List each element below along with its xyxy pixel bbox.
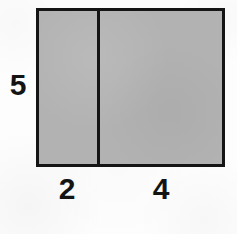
vertical-divider-line	[97, 11, 100, 164]
rectangle-shape	[36, 8, 225, 167]
right-segment-fill	[100, 11, 222, 164]
left-width-label: 2	[46, 174, 88, 204]
right-width-label: 4	[140, 174, 182, 204]
height-label: 5	[4, 70, 32, 100]
diagram-canvas: 5 2 4	[0, 0, 237, 234]
left-segment-fill	[39, 11, 97, 164]
